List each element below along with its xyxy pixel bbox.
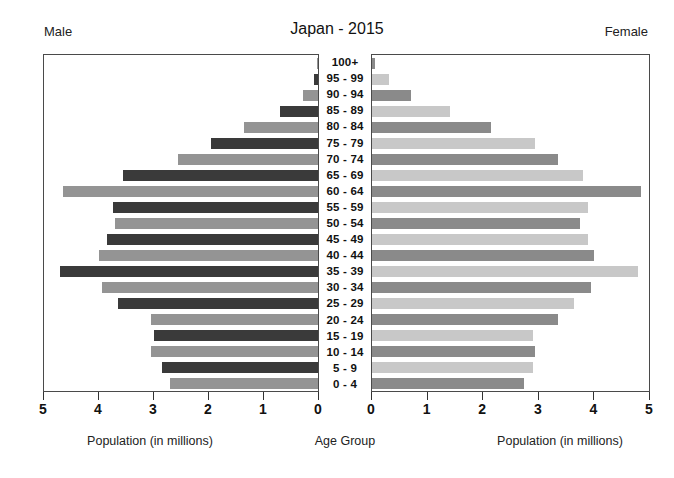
male-bar [99,250,318,261]
male-bar-row [44,375,318,391]
male-bar [118,298,318,309]
male-bar-row [44,103,318,119]
female-bar-row [372,135,649,151]
age-group-label: 10 - 14 [319,344,371,360]
age-group-label: 25 - 29 [319,295,371,311]
age-group-label: 45 - 49 [319,231,371,247]
female-bar-row [372,327,649,343]
male-bar-row [44,119,318,135]
male-bar-row [44,167,318,183]
male-bar-row [44,215,318,231]
age-group-label: 55 - 59 [319,199,371,215]
male-bar [123,170,318,181]
male-bar [113,202,319,213]
male-bar-row [44,71,318,87]
male-bar [115,218,318,229]
male-bar-list [44,55,318,391]
axis-tick [538,392,539,400]
female-bar-row [372,295,649,311]
female-bar [372,330,533,341]
female-plot-area [371,54,650,392]
age-group-label: 95 - 99 [319,70,371,86]
female-bar-row [372,359,649,375]
male-bar [151,346,318,357]
female-bar [372,74,389,85]
axis-tick-label: 3 [149,401,157,417]
axis-tick [649,392,650,400]
male-bar [303,90,318,101]
female-bar-row [372,231,649,247]
male-bar [162,362,318,373]
age-group-axis: 100+95 - 9990 - 9485 - 8980 - 8475 - 797… [319,54,371,392]
axis-tick-label: 4 [589,401,597,417]
male-bar [244,122,318,133]
male-bar-row [44,327,318,343]
male-bar [314,74,318,85]
axis-tick-label: 2 [478,401,486,417]
age-group-label: 70 - 74 [319,151,371,167]
male-bar [211,138,318,149]
male-bar-row [44,279,318,295]
female-bar [372,298,574,309]
female-bar [372,138,535,149]
male-bar [107,234,318,245]
female-bar [372,186,641,197]
female-bar [372,314,558,325]
female-bar-list [372,55,649,391]
male-bar [63,186,318,197]
male-bar-row [44,247,318,263]
axis-tick-label: 5 [39,401,47,417]
female-header-label: Female [605,24,648,39]
age-group-label: 20 - 24 [319,312,371,328]
female-bar [372,58,375,69]
female-bar [372,250,594,261]
female-bar-row [372,279,649,295]
axis-tick [43,392,44,400]
axis-tick [371,392,372,400]
axis-tick-label: 2 [204,401,212,417]
female-bar [372,170,583,181]
female-bar-row [372,103,649,119]
male-bar-row [44,135,318,151]
male-bar-row [44,55,318,71]
male-plot-area [43,54,319,392]
female-bar [372,90,411,101]
female-bar [372,202,588,213]
axis-tick-label: 4 [94,401,102,417]
female-bar [372,362,533,373]
male-bar [178,154,318,165]
female-bar-row [372,199,649,215]
female-bar-row [372,311,649,327]
male-bar-row [44,183,318,199]
female-bar-row [372,375,649,391]
female-bar [372,154,558,165]
female-bar-row [372,151,649,167]
female-bar-row [372,167,649,183]
female-x-axis: 012345 [371,392,650,418]
male-bar [154,330,318,341]
male-bar-row [44,311,318,327]
age-group-label: 35 - 39 [319,263,371,279]
age-group-label: 15 - 19 [319,328,371,344]
male-bar [280,106,318,117]
axis-tick [98,392,99,400]
female-bar-row [372,119,649,135]
male-bar-row [44,199,318,215]
axis-tick [427,392,428,400]
axis-tick-label: 5 [645,401,653,417]
male-bar [60,266,318,277]
axis-tick-label: 1 [423,401,431,417]
age-group-label: 50 - 54 [319,215,371,231]
male-bar-row [44,343,318,359]
axis-tick [153,392,154,400]
male-bar-row [44,295,318,311]
female-bar [372,346,535,357]
age-group-label: 90 - 94 [319,86,371,102]
female-bar-row [372,55,649,71]
male-bar-row [44,151,318,167]
female-bar-row [372,71,649,87]
center-axis-caption: Age Group [315,434,375,448]
age-group-label: 30 - 34 [319,279,371,295]
axis-tick [593,392,594,400]
male-bar-row [44,263,318,279]
